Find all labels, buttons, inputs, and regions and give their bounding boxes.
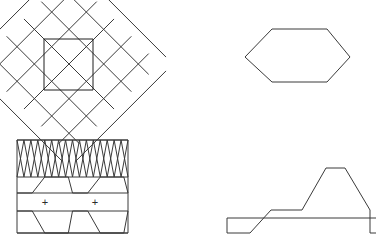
plus-marker-right: +	[92, 197, 98, 208]
stepped-polygon-outline	[227, 168, 376, 233]
lattice-line	[0, 0, 79, 74]
banded-box-svg	[0, 130, 140, 251]
zigzag-polyline-down	[17, 140, 128, 177]
lattice-svg	[0, 0, 140, 125]
figure-stepped-polygon	[220, 125, 376, 251]
figure-diagonal-lattice	[0, 0, 140, 125]
hexagon-outline	[245, 29, 350, 82]
plus-marker-left: +	[42, 197, 48, 208]
stepped-svg	[220, 125, 376, 251]
banded-box-zigzag-band	[17, 140, 128, 177]
drawing-canvas: + +	[0, 0, 376, 251]
chevron-upper	[17, 177, 128, 193]
banded-box-chevron-bands	[17, 177, 128, 233]
lattice-line	[59, 0, 149, 74]
zigzag-polyline-up	[17, 140, 128, 177]
lattice-line	[0, 0, 62, 57]
hexagon-svg	[230, 0, 376, 110]
chevron-lower	[17, 211, 128, 233]
figure-elongated-hexagon	[230, 0, 376, 110]
figure-banded-rectangle: + +	[0, 130, 140, 251]
